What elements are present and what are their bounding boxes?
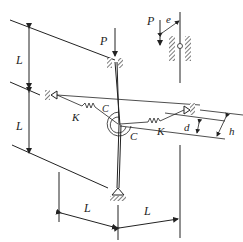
- label-load-inset: P: [146, 14, 155, 28]
- label-offset-h: h: [229, 125, 235, 137]
- label-load-main: P: [99, 34, 108, 48]
- offset-dimensions: d h: [120, 110, 243, 139]
- vertical-dimension-upper: L: [10, 20, 115, 88]
- label-offset-d: d: [184, 121, 190, 133]
- bottom-pin-support: [110, 188, 126, 201]
- left-spring-support: K C: [45, 90, 200, 124]
- label-horizontal-right: L: [143, 204, 151, 218]
- label-rotational-spring-left: C: [102, 103, 109, 114]
- label-rotational-spring-right: C: [130, 130, 138, 142]
- mechanics-diagram: L L P K C C: [0, 0, 243, 242]
- label-length-upper: L: [15, 53, 23, 67]
- label-length-lower: L: [15, 119, 23, 133]
- label-horizontal-left: L: [83, 201, 91, 215]
- column-members: [115, 62, 121, 188]
- rotational-spring: C: [107, 112, 138, 142]
- label-eccentricity: e: [166, 13, 171, 25]
- main-load: P: [99, 28, 115, 56]
- label-spring-left: K: [71, 111, 80, 123]
- eccentric-load-inset: P e: [146, 12, 191, 83]
